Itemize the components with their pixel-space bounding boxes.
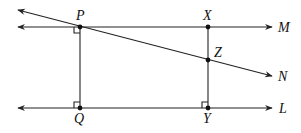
geometry-diagram: P X Z Q Y M N L: [0, 0, 301, 133]
label-x: X: [203, 9, 212, 23]
diagram-canvas: [0, 0, 301, 133]
label-y: Y: [203, 112, 211, 126]
label-l: L: [279, 102, 287, 116]
label-q: Q: [74, 112, 84, 126]
point-q: [78, 106, 83, 111]
point-p: [78, 25, 83, 30]
label-n: N: [278, 70, 287, 84]
label-p: P: [76, 9, 85, 23]
point-y: [206, 106, 211, 111]
label-z: Z: [214, 46, 222, 60]
point-x: [206, 25, 211, 30]
line-n: [18, 10, 272, 76]
label-m: M: [278, 21, 290, 35]
point-z: [206, 58, 211, 63]
